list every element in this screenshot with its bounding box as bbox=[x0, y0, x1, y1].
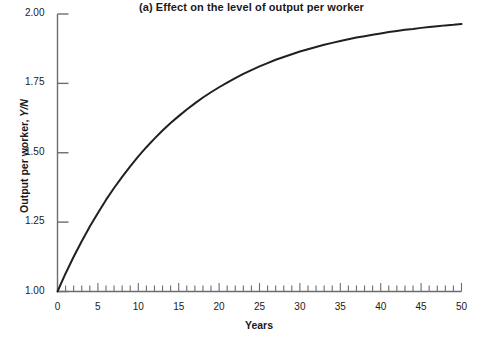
y-axis-ticks bbox=[58, 14, 69, 292]
x-axis-minor-ticks bbox=[58, 283, 462, 292]
y-axis-tick-label: 1.50 bbox=[5, 146, 45, 157]
x-axis-tick-label: 20 bbox=[199, 301, 239, 312]
chart-figure: (a) Effect on the level of output per wo… bbox=[0, 0, 503, 338]
x-axis-tick-label: 50 bbox=[442, 301, 482, 312]
x-axis-tick-label: 45 bbox=[401, 301, 441, 312]
x-axis-tick-label: 15 bbox=[159, 301, 199, 312]
x-axis-tick-label: 25 bbox=[240, 301, 280, 312]
x-axis-tick-label: 5 bbox=[78, 301, 118, 312]
data-series-line bbox=[58, 24, 462, 292]
y-axis-tick-label: 2.00 bbox=[5, 7, 45, 18]
x-axis-tick-label: 30 bbox=[280, 301, 320, 312]
x-axis-tick-label: 35 bbox=[320, 301, 360, 312]
axes-group bbox=[57, 14, 462, 292]
y-axis-tick-label: 1.75 bbox=[5, 76, 45, 87]
data-series-group bbox=[58, 24, 462, 292]
y-axis-tick-label: 1.00 bbox=[5, 285, 45, 296]
y-axis-tick-label: 1.25 bbox=[5, 215, 45, 226]
x-axis-tick-label: 0 bbox=[38, 301, 78, 312]
plot-area bbox=[0, 0, 503, 338]
x-axis-tick-label: 40 bbox=[361, 301, 401, 312]
x-axis-tick-label: 10 bbox=[118, 301, 158, 312]
